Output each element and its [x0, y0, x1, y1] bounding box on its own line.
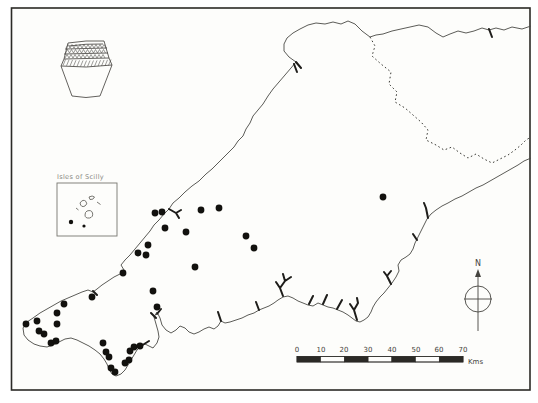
scale-label: 60 — [435, 346, 444, 354]
site-dot — [380, 194, 387, 201]
site-dot — [159, 209, 166, 216]
site-dot — [54, 321, 61, 328]
scale-bar-segment — [416, 357, 440, 363]
site-dot — [106, 354, 113, 361]
site-dot — [89, 294, 96, 301]
scale-bar-segment — [344, 357, 368, 363]
site-dot — [150, 288, 157, 295]
site-dot — [41, 331, 48, 338]
site-dot — [192, 264, 199, 271]
site-dot — [183, 229, 190, 236]
scale-label: 0 — [295, 346, 299, 354]
site-dot — [54, 310, 61, 317]
scilly-inset-label: Isles of Scilly — [57, 173, 104, 181]
site-dot — [53, 338, 60, 345]
distribution-map: Isles of Scilly N 0 1 — [0, 0, 538, 403]
site-dot — [152, 210, 159, 217]
site-dot — [61, 301, 68, 308]
site-dot — [131, 344, 138, 351]
site-dot — [216, 205, 223, 212]
scale-bar-segment — [392, 357, 416, 363]
figure-page: Isles of Scilly N 0 1 — [0, 0, 538, 403]
site-dot — [120, 270, 127, 277]
site-dot — [154, 304, 161, 311]
scale-unit-label: Kms — [468, 358, 483, 366]
site-dot — [135, 250, 142, 257]
site-dot — [162, 225, 169, 232]
scale-label: 30 — [364, 346, 373, 354]
site-dot — [112, 369, 119, 376]
site-dot — [145, 242, 152, 249]
scale-bar-segment — [297, 357, 321, 363]
north-label: N — [475, 259, 481, 268]
site-dot — [69, 220, 73, 224]
scale-label: 40 — [388, 346, 397, 354]
scale-label: 10 — [317, 346, 326, 354]
scale-label: 70 — [459, 346, 468, 354]
scale-label: 20 — [340, 346, 349, 354]
scale-bar-segment — [368, 357, 392, 363]
scale-bar-segments — [297, 357, 463, 363]
site-dot — [34, 318, 41, 325]
scale-bar-segment — [321, 357, 345, 363]
site-dot — [243, 233, 250, 240]
site-dot — [143, 252, 150, 259]
site-dot — [251, 245, 258, 252]
site-dot — [198, 207, 205, 214]
site-dot — [137, 343, 144, 350]
site-dot — [100, 340, 107, 347]
site-dot — [82, 224, 85, 227]
scale-label: 50 — [412, 346, 421, 354]
scale-bar-segment — [439, 357, 463, 363]
site-dot — [122, 360, 129, 367]
site-dot — [23, 321, 30, 328]
map-frame — [12, 8, 531, 390]
